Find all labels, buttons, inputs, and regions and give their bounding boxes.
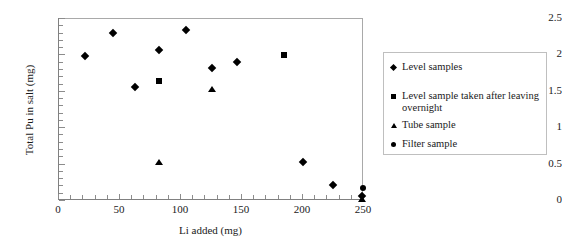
x-tick-label: 0 bbox=[38, 204, 78, 215]
y-tick bbox=[59, 105, 63, 106]
x-axis-line bbox=[58, 199, 364, 200]
y-tick bbox=[59, 47, 63, 48]
x-axis-title: Li added (mg) bbox=[58, 224, 363, 236]
x-tick-label: 150 bbox=[221, 204, 261, 215]
y-tick bbox=[59, 171, 63, 172]
y-tick bbox=[59, 18, 65, 19]
y-tick bbox=[59, 33, 63, 34]
x-tick bbox=[326, 195, 327, 199]
data-point-circle bbox=[360, 185, 366, 191]
x-tick bbox=[314, 195, 315, 199]
x-tick bbox=[107, 195, 108, 199]
y-tick bbox=[59, 120, 63, 121]
x-tick bbox=[351, 195, 352, 199]
y-tick bbox=[59, 156, 63, 157]
y-tick bbox=[59, 69, 63, 70]
y-tick bbox=[59, 84, 63, 85]
y-tick-label: 0.5 bbox=[510, 158, 562, 169]
x-tick bbox=[278, 195, 279, 199]
y-tick bbox=[59, 178, 63, 179]
x-tick bbox=[119, 194, 120, 199]
x-tick bbox=[70, 195, 71, 199]
y-tick bbox=[59, 40, 63, 41]
data-point-triangle bbox=[208, 86, 216, 92]
y-tick-label: 2.5 bbox=[510, 12, 562, 23]
x-tick-label: 100 bbox=[160, 204, 200, 215]
data-point-square bbox=[156, 78, 162, 84]
triangle-marker-icon bbox=[391, 123, 397, 128]
x-tick bbox=[253, 195, 254, 199]
legend-item-4[interactable]: Filter sample bbox=[391, 138, 543, 150]
x-tick-label: 50 bbox=[99, 204, 139, 215]
x-tick bbox=[290, 195, 291, 199]
legend-item-3[interactable]: Tube sample bbox=[391, 119, 543, 131]
x-tick bbox=[229, 195, 230, 199]
circle-marker-icon bbox=[391, 142, 396, 147]
legend-item-2[interactable]: Level sample taken after leaving overnig… bbox=[391, 90, 543, 114]
y-tick bbox=[59, 62, 63, 63]
x-tick bbox=[302, 194, 303, 199]
x-tick-label: 200 bbox=[282, 204, 322, 215]
legend-item-label: Filter sample bbox=[402, 138, 543, 150]
x-tick bbox=[82, 195, 83, 199]
y-tick bbox=[59, 134, 63, 135]
y-tick bbox=[59, 54, 65, 55]
x-tick bbox=[131, 195, 132, 199]
y-tick-label: 0 bbox=[510, 194, 562, 205]
legend-item-label: Level samples bbox=[402, 61, 543, 73]
x-tick bbox=[168, 195, 169, 199]
x-tick bbox=[180, 194, 181, 199]
x-tick bbox=[339, 195, 340, 199]
x-tick bbox=[204, 195, 205, 199]
y-tick bbox=[59, 164, 65, 165]
diamond-marker-icon bbox=[390, 64, 397, 71]
y-tick bbox=[59, 149, 63, 150]
legend-item-1[interactable]: Level samples bbox=[391, 61, 543, 73]
x-tick bbox=[143, 195, 144, 199]
y-tick bbox=[59, 185, 63, 186]
x-tick-label: 250 bbox=[343, 204, 383, 215]
legend-item-label: Level sample taken after leaving overnig… bbox=[402, 90, 543, 114]
x-tick bbox=[58, 194, 59, 199]
y-tick bbox=[59, 98, 63, 99]
x-tick bbox=[241, 194, 242, 199]
x-tick bbox=[192, 195, 193, 199]
x-tick bbox=[265, 195, 266, 199]
data-point-triangle bbox=[155, 159, 163, 165]
x-tick bbox=[217, 195, 218, 199]
legend-item-label: Tube sample bbox=[402, 119, 543, 131]
y-tick bbox=[59, 113, 63, 114]
data-point-triangle bbox=[358, 196, 366, 202]
x-tick bbox=[95, 195, 96, 199]
y-axis-title: Total Pu in salt (mg) bbox=[23, 30, 35, 190]
x-tick bbox=[156, 195, 157, 199]
y-tick bbox=[59, 76, 63, 77]
y-axis-line bbox=[58, 18, 59, 200]
square-marker-icon bbox=[391, 94, 396, 99]
scatter-chart-figure: 00.511.522.5 050100150200250 Li added (m… bbox=[0, 0, 562, 251]
y-tick bbox=[59, 142, 63, 143]
data-point-square bbox=[281, 52, 287, 58]
y-tick bbox=[59, 200, 65, 201]
plot-area bbox=[58, 18, 363, 200]
y-tick bbox=[59, 25, 63, 26]
y-tick bbox=[59, 193, 63, 194]
chart-legend: Level samplesLevel sample taken after le… bbox=[383, 52, 547, 155]
y-tick bbox=[59, 127, 65, 128]
y-tick bbox=[59, 91, 65, 92]
